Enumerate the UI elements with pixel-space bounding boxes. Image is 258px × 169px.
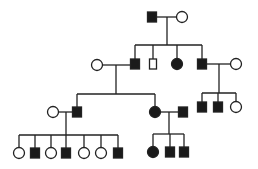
affected-male-symbol [62,148,71,158]
affected-male-symbol [73,107,82,117]
unaffected-female-symbol [231,102,242,113]
affected-male-symbol [214,102,223,112]
affected-male-symbol [114,148,123,158]
unaffected-female-symbol [177,12,188,23]
affected-male-symbol [179,107,188,117]
unaffected-female-symbol [48,107,59,118]
pedigree-svg [0,0,258,169]
affected-male-symbol [198,102,207,112]
affected-male-symbol [148,12,157,22]
unaffected-female-symbol [46,148,57,159]
affected-female-symbol [150,107,161,118]
unaffected-female-symbol [79,148,90,159]
unaffected-male-symbol [150,59,157,69]
affected-male-symbol [198,59,207,69]
unaffected-female-symbol [92,60,103,71]
affected-male-symbol [131,59,140,69]
affected-female-symbol [172,59,183,70]
unaffected-female-symbol [14,148,25,159]
unaffected-female-symbol [231,59,242,70]
affected-male-symbol [31,148,40,158]
pedigree-chart [0,0,258,169]
affected-female-symbol [148,147,159,158]
affected-male-symbol [180,147,189,157]
unaffected-female-symbol [96,148,107,159]
affected-male-symbol [166,147,175,157]
